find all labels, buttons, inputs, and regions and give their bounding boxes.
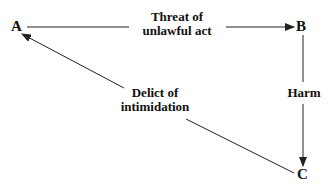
node-a: A bbox=[11, 18, 22, 35]
edge-label-threat-line1: Threat of bbox=[124, 10, 230, 24]
edge-label-delict: Delict of intimidation bbox=[112, 86, 198, 114]
edge-label-threat: Threat of unlawful act bbox=[124, 10, 230, 38]
edge-c-a-lower bbox=[186, 119, 294, 173]
edge-label-harm: Harm bbox=[282, 86, 326, 100]
edge-c-a-arrow bbox=[22, 34, 124, 88]
edge-label-delict-line1: Delict of bbox=[112, 86, 198, 100]
edge-label-delict-line2: intimidation bbox=[112, 100, 198, 114]
node-b: B bbox=[296, 18, 306, 35]
edge-label-threat-line2: unlawful act bbox=[124, 24, 230, 38]
node-c: C bbox=[297, 166, 308, 183]
